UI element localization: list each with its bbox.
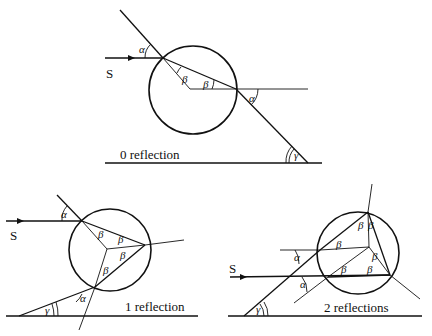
- normal-extension: [390, 275, 420, 299]
- angle-label-beta: β: [340, 263, 347, 275]
- angle-label-alpha: α: [61, 208, 67, 220]
- normal-extension: [368, 184, 372, 212]
- radius-line: [328, 247, 369, 277]
- arrow-icon: [17, 218, 24, 224]
- angle-arc-gamma: [260, 304, 264, 316]
- angle-arc-beta: [177, 67, 181, 73]
- angle-label-beta: β: [366, 263, 373, 275]
- angle-label-alpha: α: [80, 292, 86, 304]
- source-label: S: [106, 66, 113, 81]
- angle-label-gamma: γ: [45, 304, 50, 316]
- angle-label-gamma: γ: [256, 303, 261, 315]
- rainbow-reflection-diagrams: S α β β α γ 0 reflection S α β β β β α γ…: [0, 0, 432, 336]
- reflected-ray: [320, 212, 368, 250]
- droplet-circle: [149, 46, 237, 134]
- angle-label-beta: β: [102, 264, 109, 276]
- angle-label-alpha: α: [294, 251, 300, 263]
- arrow-icon: [240, 274, 247, 280]
- angle-label-beta: β: [367, 219, 374, 231]
- diagram-2-reflections: S α β β β β β β α γ 2 reflections: [228, 184, 422, 316]
- angle-label-beta: β: [335, 238, 342, 250]
- angle-label-beta: β: [119, 249, 126, 261]
- radius-line: [107, 245, 145, 249]
- angle-label-beta: β: [117, 233, 124, 245]
- source-label: S: [10, 228, 17, 243]
- diagram-0-reflection: S α β β α γ 0 reflection: [105, 10, 322, 163]
- refracted-ray: [163, 58, 236, 89]
- caption: 2 reflections: [324, 300, 389, 315]
- angle-label-alpha: α: [249, 92, 255, 104]
- angle-label-beta: β: [371, 250, 378, 262]
- angle-arc-beta: [212, 80, 214, 89]
- arrow-icon: [128, 55, 135, 61]
- angle-label-alpha: α: [300, 278, 306, 290]
- angle-label-beta: β: [357, 219, 364, 231]
- angle-label-alpha: α: [139, 43, 145, 55]
- angle-label-beta: β: [181, 73, 188, 85]
- angle-arc-gamma: [56, 302, 58, 316]
- angle-arc-gamma: [52, 304, 54, 316]
- angle-arc-gamma: [264, 302, 268, 316]
- caption: 1 reflection: [125, 299, 185, 314]
- source-label: S: [229, 261, 236, 276]
- angle-label-beta: β: [202, 78, 209, 90]
- diagram-1-reflection: S α β β β β α γ 1 reflection: [6, 195, 198, 330]
- radius-line: [320, 247, 369, 250]
- caption: 0 reflection: [120, 147, 180, 162]
- angle-label-beta: β: [97, 228, 104, 240]
- angle-arc-alpha: [145, 44, 151, 58]
- angle-label-gamma: γ: [294, 149, 299, 161]
- refracted-ray: [82, 221, 145, 245]
